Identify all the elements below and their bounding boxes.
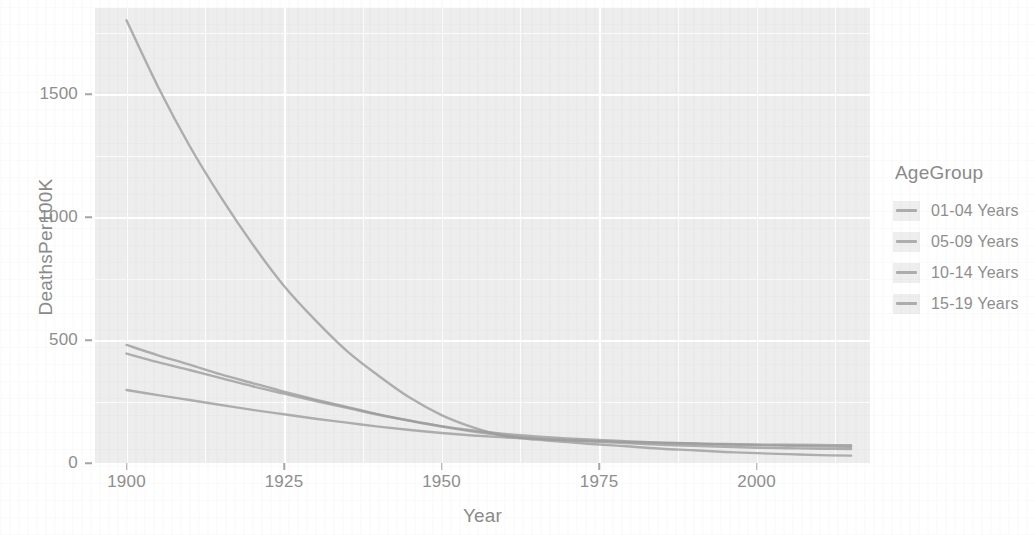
legend-item-label: 05-09 Years bbox=[931, 233, 1019, 251]
legend-item-label: 01-04 Years bbox=[931, 202, 1019, 220]
legend-key-line-icon bbox=[893, 263, 920, 283]
legend-item-1[interactable]: 01-04 Years bbox=[893, 195, 1033, 226]
legend: AgeGroup 01-04 Years05-09 Years10-14 Yea… bbox=[893, 162, 1033, 319]
gridline-y-major bbox=[95, 463, 870, 465]
plot-area: 050010001500 19001925195019752000 Deaths… bbox=[0, 0, 1035, 535]
y-tick-mark bbox=[85, 462, 92, 464]
legend-title: AgeGroup bbox=[895, 162, 1033, 184]
y-tick-mark bbox=[85, 216, 92, 218]
legend-item-label: 10-14 Years bbox=[931, 264, 1019, 282]
y-axis-title: DeathsPer100K bbox=[35, 117, 57, 377]
series-lines bbox=[95, 8, 870, 463]
y-tick-mark bbox=[85, 93, 92, 95]
legend-key-line-icon bbox=[893, 201, 920, 221]
legend-item-2[interactable]: 05-09 Years bbox=[893, 226, 1033, 257]
legend-key-line-icon bbox=[893, 294, 920, 314]
x-tick-label: 2000 bbox=[737, 472, 776, 492]
y-tick-mark bbox=[85, 339, 92, 341]
x-tick-mark bbox=[598, 463, 600, 470]
chart-page: 050010001500 19001925195019752000 Deaths… bbox=[0, 0, 1035, 535]
legend-item-4[interactable]: 15-19 Years bbox=[893, 288, 1033, 319]
legend-items: 01-04 Years05-09 Years10-14 Years15-19 Y… bbox=[893, 195, 1033, 319]
series-line-1 bbox=[127, 20, 852, 455]
y-tick-label: 0 bbox=[0, 453, 78, 473]
chart-panel bbox=[95, 8, 870, 463]
x-tick-label: 1975 bbox=[580, 472, 619, 492]
series-line-4 bbox=[127, 390, 852, 445]
x-axis-title: Year bbox=[95, 505, 870, 527]
legend-item-3[interactable]: 10-14 Years bbox=[893, 257, 1033, 288]
legend-key-line-icon bbox=[893, 232, 920, 252]
x-tick-mark bbox=[283, 463, 285, 470]
x-tick-mark bbox=[756, 463, 758, 470]
x-tick-mark bbox=[441, 463, 443, 470]
y-tick-label: 1500 bbox=[0, 84, 78, 104]
x-tick-mark bbox=[126, 463, 128, 470]
x-tick-label: 1950 bbox=[422, 472, 461, 492]
legend-item-label: 15-19 Years bbox=[931, 295, 1019, 313]
x-tick-label: 1900 bbox=[107, 472, 146, 492]
x-tick-label: 1925 bbox=[265, 472, 304, 492]
series-line-3 bbox=[127, 354, 852, 447]
